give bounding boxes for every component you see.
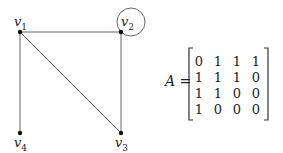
matrix-cell: 1 xyxy=(192,102,206,117)
label-v3: v3 xyxy=(115,136,128,153)
matrix-cell: 1 xyxy=(211,86,225,101)
matrix-cell: 1 xyxy=(192,86,206,101)
label-v4: v4 xyxy=(14,136,27,153)
matrix-equation-lhs: A = xyxy=(165,73,191,89)
matrix-cell: 1 xyxy=(211,70,225,85)
matrix-cell: 1 xyxy=(230,54,244,69)
matrix-cell: 0 xyxy=(249,102,263,117)
matrix-cell: 1 xyxy=(249,54,263,69)
matrix-cell: 1 xyxy=(192,70,206,85)
adjacency-matrix: 0 1 1 1 1 1 1 0 1 1 0 0 1 0 0 0 xyxy=(190,48,270,120)
matrix-cell: 0 xyxy=(192,54,206,69)
label-v1: v1 xyxy=(14,15,27,32)
label-v2: v2 xyxy=(121,15,134,32)
matrix-cell: 0 xyxy=(230,102,244,117)
matrix-cell: 0 xyxy=(249,86,263,101)
matrix-cell: 0 xyxy=(211,102,225,117)
matrix-cell: 1 xyxy=(230,70,244,85)
matrix-cell: 0 xyxy=(230,86,244,101)
edge-v1-v3 xyxy=(20,32,121,133)
matrix-cell: 1 xyxy=(211,54,225,69)
matrix-cell: 0 xyxy=(249,70,263,85)
